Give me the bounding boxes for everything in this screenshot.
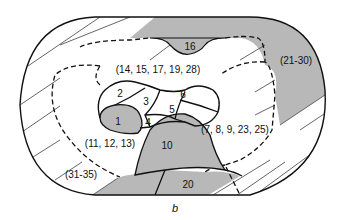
region-1 (100, 105, 142, 134)
label-20: 20 (182, 179, 194, 190)
label-3: 3 (143, 96, 149, 107)
label-middle-top: (14, 15, 17, 19, 28) (116, 64, 201, 75)
label-2: 2 (117, 88, 123, 99)
label-1: 1 (115, 116, 121, 127)
figure-caption: b (172, 202, 178, 214)
label-6: 6 (180, 89, 186, 100)
zoning-diagram: 16 2 3 6 5 1 4 10 20 (14, 15, 17, 19, 28… (0, 0, 349, 220)
label-middle-right: (7, 8, 9, 23, 25) (201, 124, 269, 135)
label-4: 4 (145, 117, 151, 128)
label-outer-top-right: (21-30) (280, 55, 312, 66)
label-middle-left: (11, 12, 13) (85, 138, 135, 149)
label-10: 10 (161, 140, 173, 151)
label-5: 5 (169, 104, 175, 115)
label-outer-bottom-left: (31-35) (65, 169, 97, 180)
label-16: 16 (184, 41, 196, 52)
